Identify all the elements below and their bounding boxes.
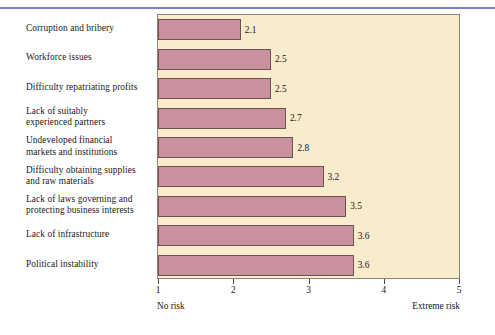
category-label-column: Corruption and briberyWorkforce issuesDi… xyxy=(0,14,152,279)
category-label-line: markets and institutions xyxy=(26,147,152,158)
category-label-line: Difficulty obtaining supplies xyxy=(26,165,152,176)
bar xyxy=(158,108,286,129)
bar-value-label: 2.5 xyxy=(275,84,287,94)
bar-value-label: 2.1 xyxy=(245,25,257,35)
bar xyxy=(158,78,271,99)
bar xyxy=(158,166,324,187)
x-axis-tick-label: 1 xyxy=(156,285,161,296)
bar-value-label: 3.6 xyxy=(358,231,370,241)
bar xyxy=(158,49,271,70)
bar-value-label: 2.5 xyxy=(275,54,287,64)
category-label: Difficulty repatriating profits xyxy=(26,82,152,93)
category-label: Undeveloped financialmarkets and institu… xyxy=(26,135,152,158)
bar-chart-figure: Corruption and briberyWorkforce issuesDi… xyxy=(0,0,495,335)
x-axis-tick xyxy=(384,279,385,284)
x-axis-tick xyxy=(459,279,460,284)
category-label: Difficulty obtaining suppliesand raw mat… xyxy=(26,165,152,188)
x-axis-tick-label: 4 xyxy=(381,285,386,296)
x-axis: No risk Extreme risk 12345 xyxy=(157,279,460,335)
x-axis-tick xyxy=(309,279,310,284)
plot-area: 2.12.52.52.72.83.23.53.63.6 xyxy=(157,14,460,279)
category-label-line: Undeveloped financial xyxy=(26,135,152,146)
category-label-line: Corruption and bribery xyxy=(26,23,152,34)
bar xyxy=(158,19,241,40)
category-label-line: Lack of infrastructure xyxy=(26,229,152,240)
category-label-line: protecting business interests xyxy=(26,205,152,216)
bar-value-label: 3.5 xyxy=(350,201,362,211)
category-label-line: Lack of laws governing and xyxy=(26,194,152,205)
category-label-line: and raw materials xyxy=(26,176,152,187)
category-label-line: Difficulty repatriating profits xyxy=(26,82,152,93)
bar xyxy=(158,225,354,246)
bar-value-label: 3.2 xyxy=(328,172,340,182)
category-label-line: Political instability xyxy=(26,259,152,270)
category-label: Lack of suitablyexperienced partners xyxy=(26,106,152,129)
axis-low-label: No risk xyxy=(157,301,185,311)
category-label-line: Workforce issues xyxy=(26,52,152,63)
category-label: Lack of infrastructure xyxy=(26,229,152,240)
x-axis-tick-label: 5 xyxy=(457,285,462,296)
plot-inner: 2.12.52.52.72.83.23.53.63.6 xyxy=(158,15,459,278)
category-label: Corruption and bribery xyxy=(26,23,152,34)
category-label: Political instability xyxy=(26,259,152,270)
category-label: Workforce issues xyxy=(26,52,152,63)
bar-value-label: 2.8 xyxy=(297,143,309,153)
top-divider-rule xyxy=(0,7,495,9)
bar xyxy=(158,255,354,276)
category-label-line: Lack of suitably xyxy=(26,106,152,117)
x-axis-tick-label: 2 xyxy=(231,285,236,296)
x-axis-tick xyxy=(158,279,159,284)
bar-value-label: 2.7 xyxy=(290,113,302,123)
axis-high-label: Extreme risk xyxy=(412,301,460,311)
x-axis-tick-label: 3 xyxy=(306,285,311,296)
category-label-line: experienced partners xyxy=(26,117,152,128)
bar xyxy=(158,137,293,158)
category-label: Lack of laws governing andprotecting bus… xyxy=(26,194,152,217)
x-axis-tick xyxy=(233,279,234,284)
bar-value-label: 3.6 xyxy=(358,260,370,270)
bar xyxy=(158,196,346,217)
